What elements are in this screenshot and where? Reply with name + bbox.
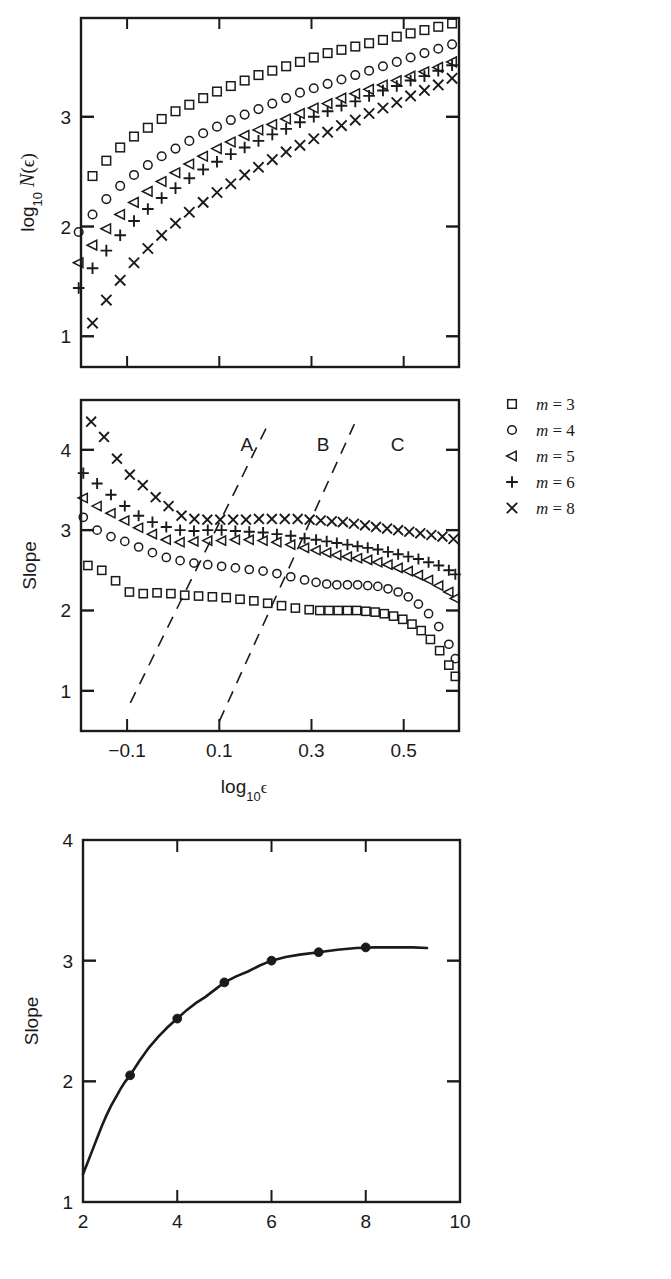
top-ylabel: log10 N(ϵ) [16, 153, 45, 232]
data-point [282, 62, 291, 71]
data-point [342, 539, 353, 550]
data-point [202, 515, 212, 525]
data-point [343, 581, 351, 589]
data-point [198, 151, 208, 161]
data-point [393, 563, 402, 572]
middle-series-m---3 [84, 561, 460, 680]
data-point [156, 192, 168, 204]
data-point [170, 182, 182, 194]
data-point [175, 525, 186, 536]
data-point [111, 577, 119, 585]
data-point [220, 978, 229, 987]
data-point [444, 587, 453, 596]
data-point [129, 258, 139, 268]
data-point [225, 148, 237, 160]
middle-xtick-label: 0.3 [298, 740, 324, 761]
data-point [185, 137, 194, 146]
top-ytick-label: 2 [60, 217, 71, 238]
middle-xtick-label: 0.5 [390, 740, 416, 761]
data-point [101, 295, 111, 305]
data-point [403, 567, 412, 576]
data-point [383, 560, 392, 569]
data-point [399, 615, 407, 623]
legend-label: m = 4 [536, 421, 575, 440]
data-point [144, 161, 153, 170]
data-point [299, 543, 308, 552]
data-point [311, 534, 322, 545]
data-point [139, 590, 147, 598]
data-point [323, 49, 332, 58]
bottom-ytick-label: 1 [62, 1192, 73, 1213]
data-point [185, 100, 194, 109]
data-point [336, 120, 346, 130]
middle-ylabel: Slope [19, 541, 40, 590]
data-point [415, 528, 425, 538]
data-point [314, 948, 323, 957]
data-point [350, 115, 360, 125]
data-point [363, 555, 372, 564]
data-point [250, 597, 258, 605]
data-point [212, 187, 222, 197]
data-point [435, 622, 443, 630]
middle-series-m---6 [78, 468, 461, 580]
data-point [322, 548, 331, 557]
data-point [151, 492, 161, 502]
data-point [161, 521, 172, 532]
data-point [213, 122, 222, 131]
data-point [327, 516, 337, 526]
data-point [392, 58, 401, 67]
data-point [434, 22, 443, 31]
data-point [448, 19, 457, 28]
data-point [116, 143, 125, 152]
top-panel-box-counting: 123log10 N(ϵ) [0, 0, 671, 400]
data-point [167, 590, 175, 598]
legend-marker-circle [508, 426, 517, 435]
data-point [216, 536, 225, 545]
data-point [170, 168, 180, 178]
data-point [125, 470, 135, 480]
data-point [78, 468, 89, 479]
data-point [119, 501, 130, 512]
data-point [273, 569, 281, 577]
data-point [337, 75, 346, 84]
legend-label: m = 8 [536, 499, 575, 518]
data-point [102, 195, 111, 204]
svg-text:log10 N(ϵ): log10 N(ϵ) [16, 153, 45, 232]
data-point [87, 262, 99, 274]
data-point [392, 32, 401, 41]
data-point [413, 571, 422, 580]
data-point [437, 532, 447, 542]
data-point [364, 108, 374, 118]
data-point [373, 558, 382, 567]
data-point [176, 557, 184, 565]
region-label-c: C [391, 434, 405, 455]
data-point [226, 179, 236, 189]
data-point [316, 516, 326, 526]
svg-text:Slope: Slope [19, 541, 40, 590]
data-point [426, 635, 434, 643]
data-point [378, 103, 388, 113]
bottom-data-markers [126, 943, 370, 1080]
data-point [157, 230, 167, 240]
data-point [379, 62, 388, 71]
data-point [199, 129, 208, 138]
data-point [213, 87, 222, 96]
data-point [266, 129, 278, 141]
data-point [309, 84, 318, 93]
data-point [287, 573, 295, 581]
middle-xtick-label: −0.1 [108, 740, 146, 761]
data-point [417, 626, 425, 634]
data-point [384, 585, 392, 593]
data-point [419, 85, 429, 95]
data-point [434, 581, 443, 590]
data-point [379, 36, 388, 45]
data-point [360, 520, 370, 530]
legend-label: m = 3 [536, 395, 575, 414]
data-point [156, 177, 166, 187]
data-point [445, 640, 453, 648]
data-point [362, 542, 373, 553]
data-point [99, 432, 109, 442]
data-point [267, 154, 277, 164]
data-point [184, 172, 196, 184]
top-series-m---8 [87, 73, 457, 328]
